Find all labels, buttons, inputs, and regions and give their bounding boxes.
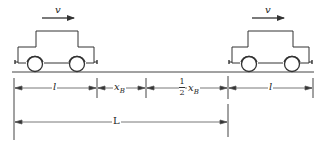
fraction-one-half: 1 2: [179, 78, 185, 97]
label-car-length-right: l: [268, 82, 273, 92]
right-car: [229, 18, 312, 72]
label-total-length: L: [112, 116, 121, 126]
label-car-length-left: l: [52, 82, 57, 92]
left-car: [15, 18, 97, 72]
velocity-label-right: v: [264, 5, 272, 15]
label-half-x-b: xB: [187, 83, 200, 96]
fraction-denominator: 2: [179, 89, 184, 97]
dimension-row-2: [15, 120, 227, 124]
velocity-label-left: v: [54, 5, 62, 15]
diagram-canvas: [0, 0, 330, 147]
label-half-x-b-sub: B: [194, 88, 199, 96]
label-x-b: xB: [113, 82, 126, 95]
fraction-numerator: 1: [179, 78, 184, 86]
label-x-b-sub: B: [120, 87, 125, 95]
